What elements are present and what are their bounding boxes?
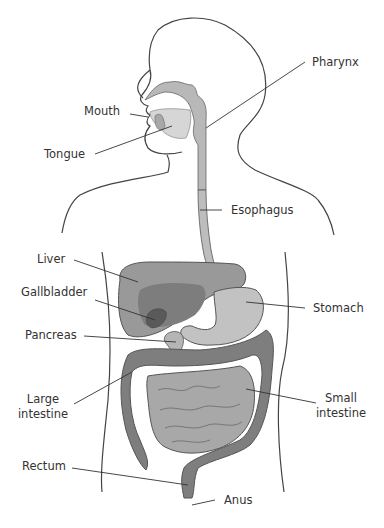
label-rectum: Rectum (22, 459, 66, 474)
leader-tongue (95, 126, 172, 154)
leader-pancreas (84, 336, 176, 342)
label-mouth: Mouth (84, 104, 120, 119)
label-gallbladder: Gallbladder (21, 285, 87, 300)
torso-right-outline (278, 252, 288, 492)
label-small-intestine: Small intestine (314, 391, 368, 421)
label-liver: Liver (37, 252, 65, 267)
label-pancreas: Pancreas (25, 328, 77, 343)
label-pharynx: Pharynx (312, 55, 359, 70)
torso-left-outline (101, 252, 110, 492)
shoulder-right-outline (318, 200, 334, 235)
label-large-intestine-line2: intestine (16, 407, 70, 422)
label-large-intestine: Large intestine (16, 392, 70, 422)
label-anus: Anus (224, 493, 252, 508)
label-large-intestine-line1: Large (16, 392, 70, 407)
label-esophagus: Esophagus (231, 203, 294, 218)
leader-small-intestine (246, 389, 316, 403)
leader-mouth (130, 114, 148, 117)
chin-neck-outline (62, 155, 169, 233)
label-stomach: Stomach (313, 301, 364, 316)
label-tongue: Tongue (44, 147, 85, 162)
leader-rectum (72, 468, 188, 485)
leader-pharynx (206, 62, 305, 128)
small-intestine (147, 366, 255, 453)
leader-anus (192, 500, 215, 505)
label-small-intestine-line1: Small (314, 391, 368, 406)
label-small-intestine-line2: intestine (314, 406, 368, 421)
